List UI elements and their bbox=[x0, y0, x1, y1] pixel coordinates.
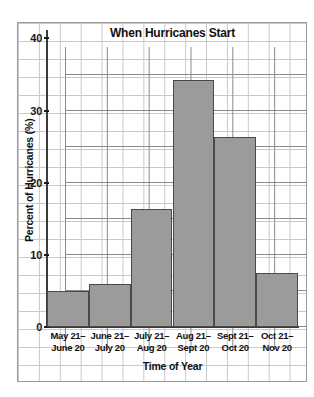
bar bbox=[89, 284, 131, 327]
x-category-label-line: Nov 20 bbox=[256, 342, 298, 354]
x-category-label-line: June 21– bbox=[89, 330, 131, 342]
x-category-label: July 21–Aug 20 bbox=[131, 330, 173, 360]
x-category-label: May 21–June 20 bbox=[47, 330, 89, 360]
x-category-label-line: Aug 20 bbox=[131, 342, 173, 354]
x-axis-title: Time of Year bbox=[47, 361, 298, 372]
x-category-label-line: July 21– bbox=[131, 330, 173, 342]
bar bbox=[47, 291, 89, 327]
y-tick-label: 0 bbox=[12, 322, 42, 333]
y-tick-label: 40 bbox=[12, 33, 42, 44]
hurricane-bar-chart-figure: 010203040 When Hurricanes Start Percent … bbox=[0, 0, 314, 397]
x-category-label-line: Sept 20 bbox=[172, 342, 214, 354]
x-axis-category-labels: May 21–June 20June 21–July 20July 21–Aug… bbox=[47, 330, 298, 360]
x-category-label-line: Sept 21– bbox=[214, 330, 256, 342]
bar-series bbox=[47, 24, 298, 327]
bar bbox=[256, 273, 298, 327]
x-category-label-line: June 20 bbox=[47, 342, 89, 354]
bar bbox=[214, 137, 256, 327]
x-category-label: Aug 21–Sept 20 bbox=[172, 330, 214, 360]
bar bbox=[131, 209, 173, 327]
chart-title: When Hurricanes Start bbox=[47, 27, 298, 39]
x-category-label: Oct 21–Nov 20 bbox=[256, 330, 298, 360]
bar bbox=[173, 80, 215, 327]
x-category-label-line: Oct 21– bbox=[256, 330, 298, 342]
x-category-label-line: May 21– bbox=[47, 330, 89, 342]
x-category-label-line: July 20 bbox=[89, 342, 131, 354]
x-category-label: Sept 21–Oct 20 bbox=[214, 330, 256, 360]
x-category-label: June 21–July 20 bbox=[89, 330, 131, 360]
x-category-label-line: Aug 21– bbox=[172, 330, 214, 342]
x-category-label-line: Oct 20 bbox=[214, 342, 256, 354]
y-axis-title: Percent of Hurricanes (%) bbox=[24, 90, 35, 270]
